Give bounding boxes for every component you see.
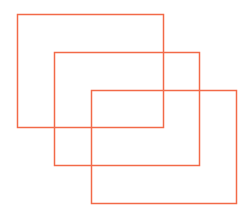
- overlapping-rectangles: [0, 0, 250, 218]
- rectangle-1: [18, 15, 164, 128]
- diagram-canvas: [0, 0, 250, 218]
- rectangle-2: [55, 53, 200, 166]
